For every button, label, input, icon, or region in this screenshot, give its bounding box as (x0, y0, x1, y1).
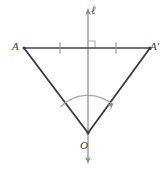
right-angle-mark-icon (88, 41, 95, 48)
geometry-figure: ℓ A A′ O (0, 0, 166, 169)
axis-line-label: ℓ (91, 5, 96, 16)
vertex-dot-o (87, 132, 90, 135)
segment-a-prime-to-o (88, 48, 150, 133)
vertex-dot-a (23, 47, 26, 50)
center-o-label: O (80, 140, 88, 151)
point-a-label: A (12, 41, 19, 52)
segment-a-to-o (24, 48, 88, 133)
point-a-prime-label: A′ (150, 41, 159, 52)
